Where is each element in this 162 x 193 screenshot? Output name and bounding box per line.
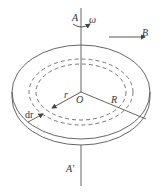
angular-velocity-arrow — [73, 24, 90, 27]
label-R: R — [110, 94, 117, 105]
label-axis-top: A — [71, 12, 79, 23]
disk-diagram: A ω B O r R dr A' — [0, 0, 162, 193]
label-omega: ω — [89, 14, 96, 25]
label-axis-bottom: A' — [65, 163, 75, 174]
diagram-canvas: A ω B O r R dr A' — [0, 0, 162, 193]
label-r: r — [64, 89, 68, 100]
label-center: O — [76, 94, 83, 105]
label-field: B — [142, 27, 148, 38]
label-dr: dr — [25, 109, 34, 120]
